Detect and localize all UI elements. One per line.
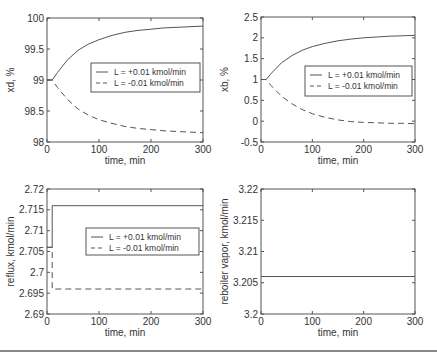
y-tick-label: 0.5 [244, 95, 258, 106]
y-tick-label: 3.22 [239, 184, 259, 195]
x-tick-label: 300 [195, 316, 212, 327]
legend-entry: L = -0.01 kmol/min [114, 78, 184, 88]
x-tick-label: 200 [355, 316, 372, 327]
x-axis-label: time, min [105, 327, 146, 338]
y-tick-label: 3.215 [233, 215, 258, 226]
x-tick-label: 0 [258, 144, 264, 155]
axes-frame [261, 189, 415, 314]
y-axis-label: reboiler vapor, kmol/min [219, 198, 230, 304]
y-tick-label: 3.21 [239, 246, 259, 257]
x-tick-label: 100 [304, 316, 321, 327]
x-tick-label: 100 [304, 144, 321, 155]
subplot-xd: 01002003009898.59999.5100time, minxd, %L… [5, 13, 212, 167]
x-tick-label: 300 [195, 144, 212, 155]
subplot-xb: 0100200300-0.500.511.522.5time, minxb, %… [219, 12, 424, 167]
y-axis-label: reflux, kmol/min [5, 216, 16, 286]
y-tick-label: 2.7 [30, 267, 44, 278]
legend-entry: L = +0.01 kmol/min [114, 67, 186, 77]
y-tick-label: 2.72 [25, 184, 45, 195]
legend: L = +0.01 kmol/minL = -0.01 kmol/min [86, 228, 199, 255]
y-tick-label: 98 [33, 137, 45, 148]
x-tick-label: 200 [143, 144, 160, 155]
x-tick-label: 300 [407, 316, 424, 327]
y-tick-label: 100 [27, 13, 44, 24]
y-tick-label: 2.69 [25, 309, 45, 320]
y-tick-label: 99 [33, 75, 45, 86]
page-divider [0, 350, 437, 352]
x-axis-label: time, min [105, 155, 146, 166]
legend-entry: L = -0.01 kmol/min [328, 81, 398, 91]
y-tick-label: 0 [252, 116, 258, 127]
y-tick-label: 2 [252, 32, 258, 43]
y-axis-label: xd, % [5, 67, 16, 92]
x-axis-label: time, min [318, 327, 359, 338]
y-tick-label: 1 [252, 74, 258, 85]
y-tick-label: 1.5 [244, 53, 258, 64]
y-tick-label: -0.5 [241, 137, 259, 148]
y-tick-label: 3.205 [233, 277, 258, 288]
x-tick-label: 200 [143, 316, 160, 327]
legend-entry: L = +0.01 kmol/min [109, 232, 181, 242]
x-axis-label: time, min [318, 155, 359, 166]
legend-entry: L = +0.01 kmol/min [328, 70, 400, 80]
y-tick-label: 2.71 [25, 225, 45, 236]
legend: L = +0.01 kmol/minL = -0.01 kmol/min [305, 66, 412, 96]
y-tick-label: 99.5 [25, 44, 45, 55]
legend-entry: L = -0.01 kmol/min [109, 243, 179, 253]
subplot-reboiler-vapor: 01002003003.23.2053.213.2153.22time, min… [219, 184, 424, 339]
x-tick-label: 200 [355, 144, 372, 155]
legend: L = +0.01 kmol/minL = -0.01 kmol/min [91, 63, 200, 92]
x-tick-label: 0 [44, 144, 50, 155]
figure-canvas: 01002003009898.59999.5100time, minxd, %L… [0, 0, 437, 354]
x-tick-label: 300 [407, 144, 424, 155]
y-tick-label: 3.2 [244, 309, 258, 320]
y-tick-label: 2.705 [19, 246, 44, 257]
y-tick-label: 2.5 [244, 12, 258, 23]
x-tick-label: 0 [44, 316, 50, 327]
x-tick-label: 100 [91, 316, 108, 327]
x-tick-label: 100 [91, 144, 108, 155]
subplot-reflux: 01002003002.692.6952.72.7052.712.7152.72… [5, 184, 212, 339]
y-axis-label: xb, % [219, 67, 230, 92]
y-tick-label: 2.695 [19, 288, 44, 299]
y-tick-label: 98.5 [25, 106, 45, 117]
x-tick-label: 0 [258, 316, 264, 327]
y-tick-label: 2.715 [19, 204, 44, 215]
